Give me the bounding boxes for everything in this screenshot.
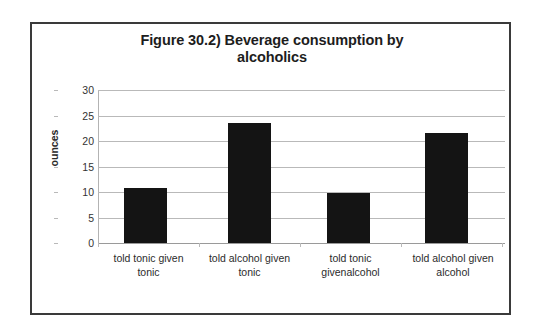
plot-area — [98, 90, 505, 243]
x-tick-label-told-tonic-givenalcohol: told tonic givenalcohol — [300, 252, 401, 279]
x-tick-label-line: told tonic given — [98, 252, 199, 266]
y-tick-label: 10 — [62, 186, 94, 198]
x-tick-mark — [401, 243, 402, 247]
chart-title-line-2: alcoholics — [82, 49, 462, 66]
x-tick-mark — [98, 243, 99, 247]
x-tick-mark — [199, 243, 200, 247]
x-tick-mark — [300, 243, 301, 247]
y-tick-label: 20 — [62, 135, 94, 147]
y-tick-mark — [54, 116, 58, 117]
figure-frame: Figure 30.2) Beverage consumption by alc… — [30, 22, 511, 315]
x-tick-label-told-alcohol-given-alcohol: told alcohol given alcohol — [401, 252, 505, 279]
y-tick-label: 30 — [62, 84, 94, 96]
bar-told-alcohol-given-tonic[interactable] — [228, 123, 271, 243]
x-tick-label-line: told alcohol given — [401, 252, 505, 266]
x-tick-label-told-alcohol-given-tonic: told alcohol given tonic — [199, 252, 300, 279]
y-axis-tick-labels: 30 25 20 15 10 5 0 — [58, 90, 94, 243]
x-tick-label-line: tonic — [199, 266, 300, 280]
gridline-25 — [98, 116, 505, 117]
y-tick-mark — [54, 192, 58, 193]
y-tick-mark — [54, 167, 58, 168]
bar-told-alcohol-given-alcohol[interactable] — [425, 133, 468, 243]
x-tick-label-line: givenalcohol — [300, 266, 401, 280]
x-tick-label-line: tonic — [98, 266, 199, 280]
bar-told-tonic-givenalcohol[interactable] — [327, 193, 370, 243]
chart-title-line-1: Figure 30.2) Beverage consumption by — [82, 32, 462, 49]
y-tick-mark — [54, 218, 58, 219]
y-tick-label: 5 — [62, 212, 94, 224]
x-axis-tick-labels: told tonic given tonic told alcohol give… — [98, 252, 505, 296]
y-tick-label: 15 — [62, 161, 94, 173]
y-tick-mark — [54, 141, 58, 142]
gridline-30 — [98, 90, 505, 91]
x-tick-label-line: told tonic — [300, 252, 401, 266]
axis-baseline — [98, 243, 505, 244]
x-tick-label-told-tonic-given-tonic: told tonic given tonic — [98, 252, 199, 279]
y-tick-mark — [54, 90, 58, 91]
y-tick-label: 25 — [62, 110, 94, 122]
x-tick-label-line: alcohol — [401, 266, 505, 280]
bar-told-tonic-given-tonic[interactable] — [124, 188, 167, 243]
y-tick-label: 0 — [62, 237, 94, 249]
x-tick-mark — [502, 243, 503, 247]
chart-title: Figure 30.2) Beverage consumption by alc… — [82, 32, 462, 66]
y-tick-mark — [54, 243, 58, 244]
x-tick-label-line: told alcohol given — [199, 252, 300, 266]
